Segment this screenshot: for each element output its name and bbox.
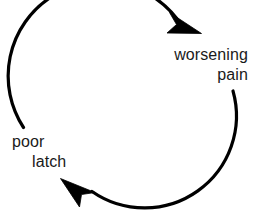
arc-top-to-worsening-pain [8, 0, 181, 128]
node-label-worsening-pain: worsening pain [174, 45, 248, 85]
node-label-poor-latch-line-1: poor [12, 132, 66, 152]
node-label-worsening-pain-line-1: worsening [174, 45, 248, 65]
cycle-arrows-graphic [0, 0, 259, 215]
node-label-poor-latch: poor latch [12, 132, 66, 172]
cycle-diagram: worsening pain poor latch [0, 0, 259, 215]
arrowhead-right-icon [167, 13, 202, 34]
node-label-poor-latch-line-2: latch [12, 152, 66, 172]
arrowhead-left-icon [61, 179, 96, 208]
arc-bottom-to-poor-latch [92, 91, 236, 208]
node-label-worsening-pain-line-2: pain [174, 65, 248, 85]
